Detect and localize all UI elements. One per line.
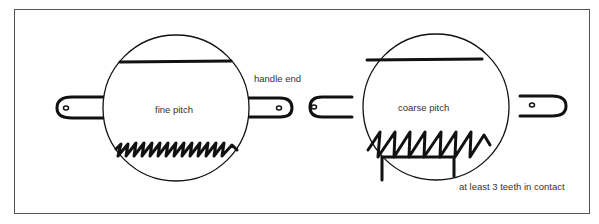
handle-end-label: handle end bbox=[254, 73, 301, 84]
right-handle-icon bbox=[248, 98, 292, 117]
fine-pitch-label: fine pitch bbox=[155, 104, 193, 115]
coarse-pitch-label: coarse pitch bbox=[398, 102, 449, 113]
teeth-contact-label: at least 3 teeth in contact bbox=[459, 181, 565, 192]
right-handle-icon bbox=[520, 96, 566, 116]
